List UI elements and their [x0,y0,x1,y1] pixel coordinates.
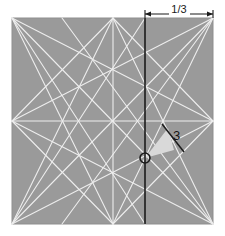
square-dissection-figure: 1/3 3 [0,0,225,236]
construction-line-network [12,18,213,224]
figure-root: 1/3 3 [0,0,225,236]
length-label: 3 [173,128,180,143]
dimension-label: 1/3 [171,3,186,15]
